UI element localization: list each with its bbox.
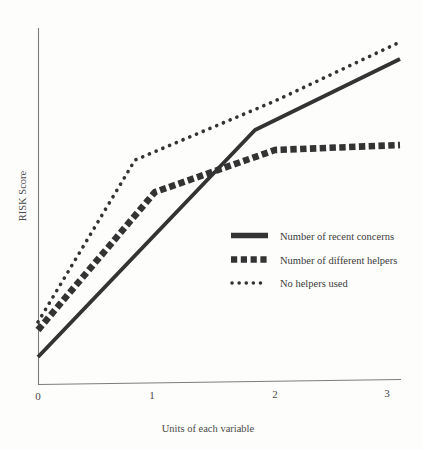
axis-group	[39, 28, 402, 385]
chart-legend: Number of recent concerns Number of diff…	[231, 231, 397, 290]
chart-container: 0 1 2 3 Units of each variable RISK Scor…	[0, 0, 423, 450]
x-axis-title: Units of each variable	[162, 423, 255, 434]
series-number-of-recent-concerns	[38, 59, 400, 357]
x-tick-label-1: 1	[149, 389, 155, 401]
x-tick-label-3: 3	[384, 387, 390, 399]
legend-label-3: No helpers used	[280, 278, 348, 289]
y-axis-title: RISK Score	[17, 170, 28, 221]
legend-entry-number-of-recent-concerns: Number of recent concerns	[231, 231, 394, 242]
legend-entry-no-helpers-used: No helpers used	[232, 278, 348, 289]
series-line-number-of-recent-concerns	[38, 59, 400, 357]
x-tick-label-2: 2	[272, 388, 278, 400]
risk-score-line-chart: 0 1 2 3 Units of each variable RISK Scor…	[0, 0, 423, 450]
x-axis-line	[39, 380, 402, 385]
legend-label-1: Number of recent concerns	[280, 231, 394, 242]
legend-entry-number-of-different-helpers: Number of different helpers	[231, 255, 397, 266]
x-tick-label-0: 0	[35, 390, 41, 402]
legend-label-2: Number of different helpers	[280, 255, 397, 266]
